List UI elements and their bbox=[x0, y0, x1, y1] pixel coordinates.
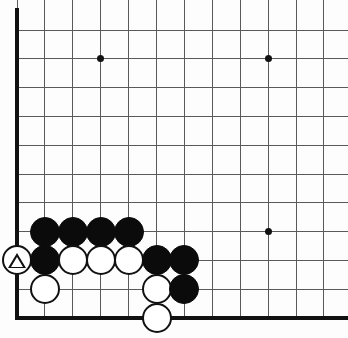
stone-black[interactable] bbox=[169, 274, 199, 304]
grid-line-horizontal-6 bbox=[17, 202, 348, 203]
stone-black[interactable] bbox=[114, 217, 144, 247]
stone-white[interactable] bbox=[114, 245, 144, 275]
go-board[interactable] bbox=[0, 0, 348, 338]
stone-black[interactable] bbox=[142, 245, 172, 275]
stone-white[interactable] bbox=[58, 245, 88, 275]
stone-black[interactable] bbox=[58, 217, 88, 247]
grid-line-horizontal-2 bbox=[17, 87, 348, 88]
grid-line-vertical-10 bbox=[296, 0, 297, 320]
star-point-upper-left bbox=[97, 55, 104, 62]
star-point-lower-right bbox=[265, 228, 272, 235]
grid-line-horizontal-0 bbox=[17, 30, 348, 31]
stone-black[interactable] bbox=[30, 217, 60, 247]
grid-line-horizontal-4 bbox=[17, 145, 348, 146]
triangle-mark-inner-icon bbox=[11, 257, 23, 267]
grid-line-vertical-7 bbox=[212, 0, 213, 320]
stone-white[interactable] bbox=[142, 303, 172, 333]
board-edge-bottom bbox=[15, 316, 348, 320]
grid-line-vertical-11 bbox=[323, 0, 324, 320]
stone-black[interactable] bbox=[169, 245, 199, 275]
stone-white[interactable] bbox=[142, 274, 172, 304]
grid-line-horizontal-3 bbox=[17, 116, 348, 117]
grid-line-vertical-8 bbox=[240, 0, 241, 320]
grid-line-horizontal-5 bbox=[17, 174, 348, 175]
star-point-upper-right bbox=[265, 55, 272, 62]
stone-white[interactable] bbox=[30, 274, 60, 304]
grid-line-horizontal-1 bbox=[17, 58, 348, 59]
stone-black[interactable] bbox=[86, 217, 116, 247]
stone-black[interactable] bbox=[30, 245, 60, 275]
grid-line-vertical-9 bbox=[268, 0, 269, 320]
stone-white[interactable] bbox=[86, 245, 116, 275]
